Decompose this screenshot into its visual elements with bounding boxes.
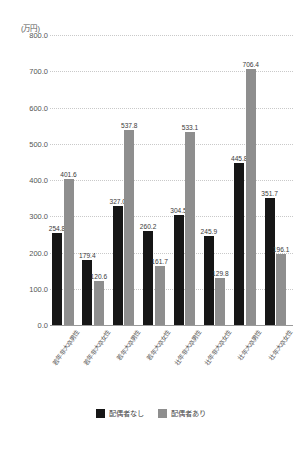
- bar: 245.9: [204, 236, 214, 325]
- bar-group: 179.4120.6: [80, 35, 110, 325]
- legend-swatch: [158, 409, 167, 418]
- y-axis-tick-label: 0.0: [4, 321, 48, 330]
- bar-value-label: 401.6: [60, 171, 77, 178]
- bar-group: 445.8706.4: [232, 35, 262, 325]
- y-axis-tick-label: 200.0: [4, 248, 48, 257]
- legend-label: 配偶者なし: [109, 408, 144, 418]
- y-axis-tick-label: 600.0: [4, 103, 48, 112]
- bar: 129.8: [215, 278, 225, 325]
- bar-group: 254.8401.6: [50, 35, 80, 325]
- bar: 161.7: [155, 266, 165, 325]
- legend-label: 配偶者あり: [171, 408, 206, 418]
- x-axis-category-labels: 若年非大卒男性若年非大卒女性若年大卒男性若年大卒女性壮年非大卒男性壮年非大卒女性…: [50, 326, 293, 388]
- y-axis-tick-label: 400.0: [4, 176, 48, 185]
- bar-value-label: 129.8: [212, 270, 229, 277]
- x-axis-category-label: 若年大卒男性: [115, 328, 143, 362]
- bar: 706.4: [246, 69, 256, 325]
- bar-value-label: 245.9: [201, 228, 218, 235]
- y-axis-tick-label: 700.0: [4, 67, 48, 76]
- y-axis-tick-label: 800.0: [4, 31, 48, 40]
- bar-value-label: 537.8: [121, 122, 138, 129]
- bar: 351.7: [265, 198, 275, 325]
- x-axis-category-label: 壮年非大卒男性: [172, 328, 203, 367]
- bar-value-label: 196.1: [273, 246, 290, 253]
- bar: 254.8: [52, 233, 62, 325]
- bar-value-label: 533.1: [182, 124, 199, 131]
- bar-value-label: 161.7: [151, 258, 168, 265]
- bar: 179.4: [82, 260, 92, 325]
- bar-chart: (万円) 254.8401.6179.4120.6327.0537.8260.2…: [0, 0, 301, 449]
- bar: 533.1: [185, 132, 195, 325]
- bar: 120.6: [94, 281, 104, 325]
- legend-swatch: [96, 409, 105, 418]
- bar: 537.8: [124, 130, 134, 325]
- bar-value-label: 120.6: [91, 273, 108, 280]
- x-axis-category-label: 壮年非大卒女性: [202, 328, 233, 367]
- legend-item[interactable]: 配偶者あり: [158, 408, 206, 418]
- y-axis-tick-label: 500.0: [4, 139, 48, 148]
- x-axis-category-label: 壮年大卒女性: [267, 328, 295, 362]
- bar-value-label: 260.2: [140, 223, 157, 230]
- bar-group: 351.7196.1: [263, 35, 293, 325]
- bar: 327.0: [113, 206, 123, 325]
- bar: 445.8: [234, 163, 244, 325]
- chart-legend: 配偶者なし配偶者あり: [0, 408, 301, 418]
- bar-group: 327.0537.8: [111, 35, 141, 325]
- bar: 304.5: [174, 215, 184, 325]
- x-axis-category-label: 若年非大卒女性: [81, 328, 112, 367]
- bar-group: 245.9129.8: [202, 35, 232, 325]
- x-axis-category-label: 若年非大卒男性: [50, 328, 81, 367]
- y-axis-tick-label: 100.0: [4, 284, 48, 293]
- bar-group: 304.5533.1: [172, 35, 202, 325]
- legend-item[interactable]: 配偶者なし: [96, 408, 144, 418]
- x-axis-category-label: 若年大卒女性: [145, 328, 173, 362]
- bar-value-label: 706.4: [242, 61, 259, 68]
- y-axis-tick-label: 300.0: [4, 212, 48, 221]
- bar-value-label: 351.7: [261, 190, 278, 197]
- x-axis-category-label: 壮年大卒男性: [236, 328, 264, 362]
- bar: 401.6: [64, 179, 74, 325]
- bar-series-layer: 254.8401.6179.4120.6327.0537.8260.2161.7…: [50, 35, 293, 325]
- bar: 260.2: [143, 231, 153, 325]
- bar-value-label: 179.4: [79, 252, 96, 259]
- bar-group: 260.2161.7: [141, 35, 171, 325]
- plot-area: 254.8401.6179.4120.6327.0537.8260.2161.7…: [50, 35, 293, 325]
- bar: 196.1: [276, 254, 286, 325]
